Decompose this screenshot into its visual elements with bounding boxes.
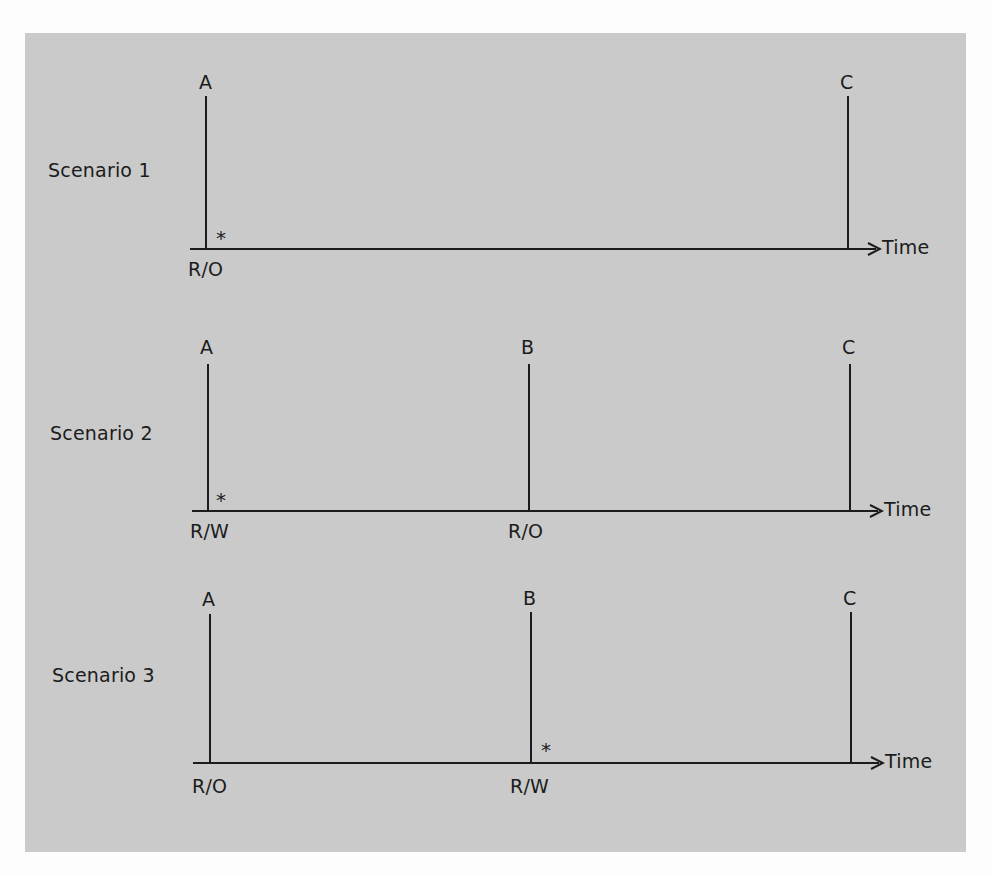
point-a-label: A	[200, 338, 213, 357]
point-c-label: C	[842, 338, 855, 357]
timeline-axis	[193, 762, 879, 764]
point-a-line	[207, 364, 209, 512]
timeline-axis	[190, 248, 876, 250]
point-a-line	[205, 96, 207, 250]
time-axis-label: Time	[882, 238, 929, 257]
timeline-axis	[192, 510, 878, 512]
point-b-mode: R/O	[508, 522, 543, 541]
point-b-line	[530, 612, 532, 764]
diagram-panel	[25, 33, 966, 852]
point-b-mode: R/W	[510, 777, 549, 796]
point-b-label: B	[523, 589, 536, 608]
point-b-label: B	[521, 338, 534, 357]
point-a-label: A	[202, 590, 215, 609]
arrow-right-icon	[869, 756, 885, 770]
scenario-1-label: Scenario 1	[48, 161, 151, 180]
asterisk-marker: *	[541, 740, 551, 760]
point-c-line	[850, 612, 852, 764]
asterisk-marker: *	[216, 490, 226, 510]
point-a-mode: R/O	[188, 260, 223, 279]
point-a-label: A	[199, 73, 212, 92]
point-c-line	[849, 364, 851, 512]
arrow-right-icon	[866, 242, 882, 256]
point-a-mode: R/O	[192, 777, 227, 796]
scenario-3-label: Scenario 3	[52, 666, 155, 685]
scenario-2-label: Scenario 2	[50, 424, 153, 443]
point-c-label: C	[840, 73, 853, 92]
point-b-line	[528, 364, 530, 512]
arrow-right-icon	[868, 504, 884, 518]
point-a-mode: R/W	[190, 522, 229, 541]
time-axis-label: Time	[885, 752, 932, 771]
point-c-line	[847, 96, 849, 250]
time-axis-label: Time	[884, 500, 931, 519]
asterisk-marker: *	[216, 228, 226, 248]
point-a-line	[209, 614, 211, 764]
point-c-label: C	[843, 589, 856, 608]
